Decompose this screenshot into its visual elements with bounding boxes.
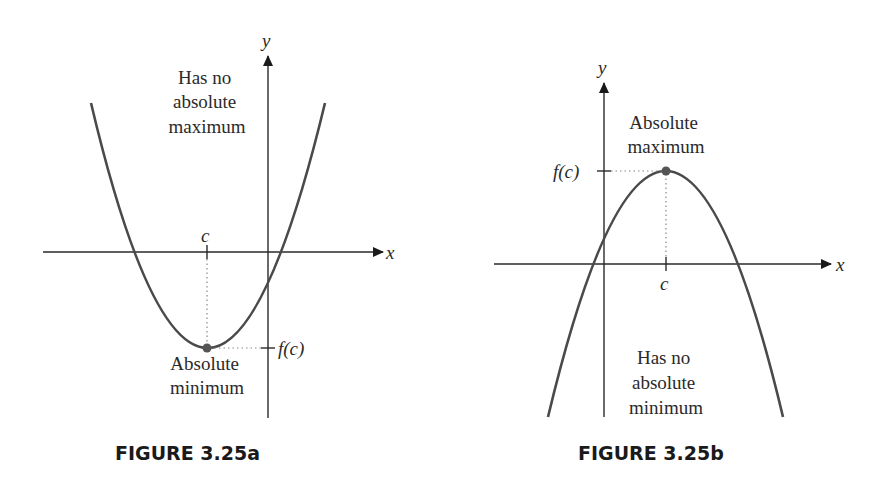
c-label: c	[201, 225, 210, 246]
x-axis-label: x	[835, 254, 845, 275]
caption-figure-b: FIGURE 3.25b	[578, 442, 724, 464]
figure-b: x y f(c) c Absolute maximum Has no absol…	[494, 57, 845, 418]
no-min-note: Has no absolute minimum	[629, 347, 703, 418]
y-axis-label: y	[260, 30, 271, 51]
fc-label: f(c)	[278, 338, 304, 360]
no-max-note: Has no absolute maximum	[168, 67, 245, 137]
fc-label: f(c)	[553, 161, 579, 183]
maximum-point	[662, 167, 671, 176]
minimum-point	[203, 344, 212, 353]
abs-min-note: Absolute minimum	[170, 353, 244, 398]
figure-a: x y c f(c) Has no absolute maximum Absol…	[43, 30, 395, 418]
y-axis-label: y	[596, 57, 607, 78]
figures-canvas: x y c f(c) Has no absolute maximum Absol…	[0, 0, 886, 477]
x-axis-label: x	[385, 242, 395, 263]
c-label: c	[660, 273, 669, 294]
caption-figure-a: FIGURE 3.25a	[115, 442, 260, 464]
abs-max-note: Absolute maximum	[627, 112, 704, 157]
